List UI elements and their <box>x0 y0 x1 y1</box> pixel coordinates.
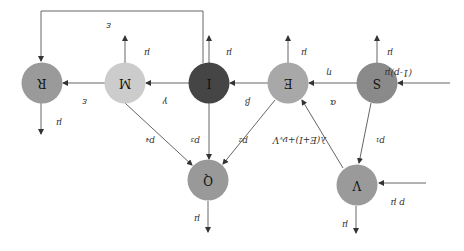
node-label: E <box>284 76 293 90</box>
label-death-e: μ <box>301 48 307 58</box>
node-r: R <box>22 63 63 104</box>
label-death-s: μ <box>387 48 393 58</box>
node-label: M <box>119 76 131 90</box>
label-gamma: γ <box>162 97 168 107</box>
edge-i-r <box>41 11 203 63</box>
edges <box>41 11 450 233</box>
compartment-diagram: SEIMRQV (1-p)μ η α β γ ε ε μ μ μ μ μ p₁ … <box>0 0 464 251</box>
label-alpha: α <box>330 98 336 108</box>
node-e: E <box>268 63 309 104</box>
node-label: R <box>37 76 47 90</box>
edge-e-q <box>223 100 275 164</box>
label-death-r: μ <box>56 118 62 128</box>
label-v-input: p μ <box>390 198 405 208</box>
label-death-i: μ <box>226 48 232 58</box>
edge-s-v <box>359 103 371 163</box>
node-label: S <box>373 76 381 90</box>
label-s-input: (1-p)μ <box>384 68 412 78</box>
label-beta: β <box>245 97 251 107</box>
node-m: M <box>105 63 146 104</box>
label-death-m: μ <box>144 48 150 58</box>
node-label: V <box>352 178 362 192</box>
label-death-q: μ <box>194 214 200 224</box>
label-p3: p₃ <box>190 136 200 146</box>
label-eta: η <box>326 68 332 78</box>
label-death-v: μ <box>342 220 348 230</box>
label-p2: p₂ <box>238 136 248 146</box>
label-p4: p₄ <box>145 136 155 146</box>
label-epsilon-mr: ε <box>82 97 87 107</box>
label-v-to-e: λ(E+I)+νᵥV <box>271 135 327 145</box>
node-label: I <box>206 76 211 90</box>
node-label: Q <box>203 173 213 187</box>
node-q: Q <box>188 160 229 201</box>
label-epsilon-ir: ε <box>106 21 111 31</box>
edge-m-q <box>125 103 192 165</box>
label-p1: p₁ <box>376 136 385 146</box>
node-v: V <box>337 165 378 206</box>
edge-v-e <box>302 100 343 168</box>
node-i: I <box>189 63 230 104</box>
